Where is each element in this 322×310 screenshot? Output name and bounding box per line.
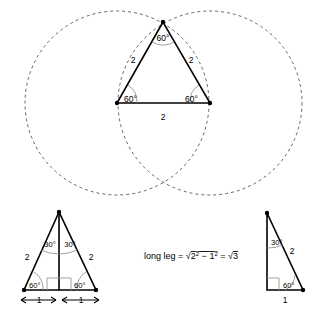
formula-equals: =: [218, 251, 228, 261]
bl-right-base-angle-label: 60°: [74, 281, 85, 290]
br-base-label: 1: [283, 295, 288, 305]
bl-right-side-label: 2: [89, 252, 94, 262]
bl-right-angle-mark-right: [59, 278, 71, 290]
bl-right-angle-mark-left: [47, 278, 59, 290]
top-figure-group: 60° 60° 60° 2 2 2: [25, 11, 302, 195]
bl-left-segment-label: 1: [37, 295, 42, 305]
bl-left-side-label: 2: [25, 252, 30, 262]
left-side-label: 2: [131, 55, 136, 65]
formula-group: long leg = √22 − 12 = √3: [144, 251, 238, 261]
bl-left-half-apex-label: 30°: [44, 240, 55, 249]
bl-left-half-apex-arc: [41, 250, 59, 254]
br-top-angle-label: 30°: [271, 238, 282, 247]
geometry-diagram-canvas: 60° 60° 60° 2 2 2 30° 3: [0, 0, 322, 310]
apex-angle-label: 60°: [157, 33, 170, 43]
bl-left-vertex-dot: [22, 288, 26, 292]
bl-right-half-apex-arc: [59, 250, 77, 254]
bottom-right-figure-group: 30° 60° 2 1: [265, 211, 305, 305]
left-base-angle-label: 60°: [124, 94, 137, 104]
bl-right-vertex-dot: [94, 288, 98, 292]
bl-apex-vertex-dot: [57, 210, 61, 214]
bottom-left-figure-group: 30° 30° 60° 60° 2 2 1 1: [21, 210, 99, 305]
br-right-vertex-dot: [301, 288, 305, 292]
br-top-vertex-dot: [265, 211, 269, 215]
left-vertex-dot: [115, 101, 119, 105]
right-base-angle-label: 60°: [185, 94, 198, 104]
bl-right-segment-label: 1: [79, 295, 84, 305]
br-right-angle-mark: [267, 278, 279, 290]
bl-right-half-apex-label: 30°: [64, 240, 75, 249]
bl-left-base-angle-label: 60°: [29, 281, 40, 290]
formula-minus: −: [199, 251, 209, 261]
base-side-label: 2: [161, 112, 166, 122]
long-leg-formula: long leg = √22 − 12 = √3: [144, 251, 238, 261]
right-vertex-dot: [208, 101, 212, 105]
right-side-label: 2: [189, 55, 194, 65]
apex-vertex-dot: [161, 20, 165, 24]
br-hypotenuse-label: 2: [290, 246, 295, 256]
formula-lead: long leg =: [144, 251, 186, 261]
br-bottom-angle-label: 60°: [283, 281, 294, 290]
formula-result-value: 3: [233, 251, 238, 261]
diagram-svg: 60° 60° 60° 2 2 2 30° 3: [0, 0, 322, 310]
